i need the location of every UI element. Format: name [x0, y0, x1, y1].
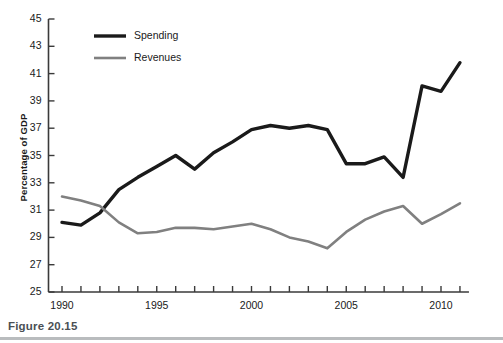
y-axis-tick-label: 35 — [16, 149, 42, 161]
line-chart — [0, 0, 503, 343]
y-axis-tick-label: 41 — [16, 67, 42, 79]
x-axis-tick-label: 1995 — [135, 299, 179, 311]
figure-caption: Figure 20.15 — [8, 320, 78, 332]
series-line-revenues — [62, 196, 460, 248]
caption-divider — [0, 337, 503, 340]
x-axis-tick-label: 2005 — [324, 299, 368, 311]
y-axis-tick-label: 27 — [16, 258, 42, 270]
y-axis-tick-label: 39 — [16, 94, 42, 106]
y-axis-tick-label: 29 — [16, 230, 42, 242]
y-axis-tick-label: 37 — [16, 121, 42, 133]
y-axis-tick-label: 25 — [16, 285, 42, 297]
y-axis-tick-label: 31 — [16, 203, 42, 215]
figure-container: Percentage of GDP 2527293133353739414345… — [0, 0, 503, 343]
x-axis-tick-label: 1990 — [40, 299, 84, 311]
y-axis-tick-label: 45 — [16, 12, 42, 24]
x-axis-tick-label: 2000 — [230, 299, 274, 311]
legend-label-spending: Spending — [134, 29, 178, 41]
y-axis-tick-label: 33 — [16, 176, 42, 188]
series-line-spending — [62, 63, 460, 225]
y-axis-tick-label: 43 — [16, 39, 42, 51]
x-axis-tick-label: 2010 — [419, 299, 463, 311]
legend-label-revenues: Revenues — [134, 51, 181, 63]
